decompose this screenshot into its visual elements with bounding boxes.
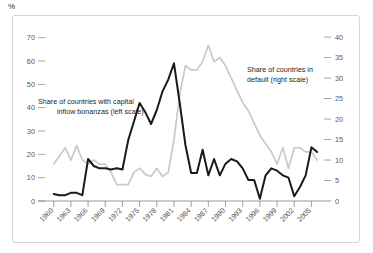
right-axis-tick-label: 20 [335, 115, 343, 124]
x-axis-tick-label: 1960 [37, 206, 55, 224]
left-axis-tick-label: 70 [27, 33, 35, 42]
left-axis-tick-label: 30 [27, 127, 35, 136]
x-axis-tick-label: 1981 [158, 206, 176, 224]
legend-left-series: Share of countries with capital inflow b… [38, 97, 144, 116]
x-axis-tick-label: 1993 [226, 206, 244, 224]
right-axis-tick-label: 35 [335, 53, 343, 62]
x-axis-tick-label: 1996 [244, 206, 262, 224]
x-axis-tick-label: 2005 [295, 206, 313, 224]
x-axis-tick-label: 2002 [278, 206, 296, 224]
left-axis-tick-label: 20 [27, 150, 35, 159]
left-axis: 010203040506070 [27, 33, 45, 205]
right-axis-tick-label: 5 [335, 176, 339, 185]
x-axis-tick-label: 1978 [141, 206, 159, 224]
x-axis-tick-label: 1987 [192, 206, 210, 224]
right-axis-tick-label: 15 [335, 135, 343, 144]
left-axis-tick-label: 10 [27, 173, 35, 182]
x-axis-tick-label: 1969 [89, 206, 107, 224]
x-axis-tick-label: 1963 [55, 206, 73, 224]
right-axis-tick-label: 0 [335, 197, 339, 206]
legend-left-line1: Share of countries with capital [38, 97, 134, 106]
legend-right-series: Share of countries in default (right sca… [247, 65, 313, 84]
x-axis-tick-label: 1984 [175, 206, 193, 224]
left-axis-tick-label: 60 [27, 57, 35, 66]
x-axis: 1960196319661969197219751978198119841987… [37, 201, 331, 224]
right-axis-tick-label: 30 [335, 74, 343, 83]
legend-right-line1: Share of countries in [247, 65, 313, 74]
left-axis-tick-label: 50 [27, 80, 35, 89]
right-axis: 0510152025303540 [324, 33, 343, 206]
x-axis-tick-label: 1990 [209, 206, 227, 224]
x-axis-tick-label: 1975 [123, 206, 141, 224]
chart-root: % 010203040506070 0510152025303540 19601… [0, 0, 373, 253]
left-axis-tick-label: 40 [27, 103, 35, 112]
right-axis-tick-label: 10 [335, 156, 343, 165]
x-axis-tick-label: 1972 [106, 206, 124, 224]
x-axis-tick-label: 1966 [72, 206, 90, 224]
legend-left-line2: inflow bonanzas (left scale) [57, 107, 144, 116]
right-axis-tick-label: 25 [335, 94, 343, 103]
chart-plot-area: 010203040506070 0510152025303540 1960196… [0, 0, 373, 253]
x-axis-tick-label: 1999 [261, 206, 279, 224]
left-axis-tick-label: 0 [31, 197, 35, 206]
legend-right-line2: default (right scale) [247, 75, 308, 84]
right-axis-tick-label: 40 [335, 33, 343, 42]
